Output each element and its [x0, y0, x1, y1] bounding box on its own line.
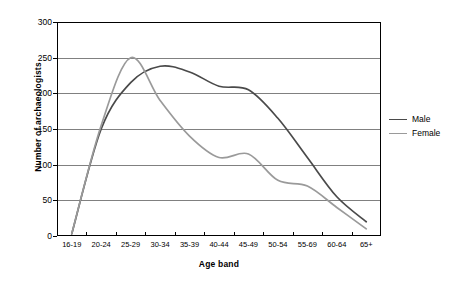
- legend-item-female[interactable]: Female: [389, 126, 457, 140]
- x-axis-tick-label: 55-69: [298, 240, 317, 249]
- y-axis-tick-label: 300: [4, 18, 52, 27]
- series-line-male: [72, 66, 367, 234]
- x-axis-tick-label: 20-24: [92, 240, 111, 249]
- x-axis-tick-label: 50-54: [268, 240, 287, 249]
- y-axis-tick-mark: [53, 165, 57, 166]
- x-axis-tick-label: 65+: [360, 240, 373, 249]
- y-axis-tick-label: 200: [4, 89, 52, 98]
- x-axis-tick-label: 60-64: [327, 240, 346, 249]
- series-line-female: [72, 57, 367, 234]
- legend-item-male[interactable]: Male: [389, 112, 457, 126]
- legend-swatch-female: [389, 133, 407, 134]
- x-axis-tick-label: 40-44: [209, 240, 228, 249]
- y-axis-tick-mark: [53, 129, 57, 130]
- y-axis-tick-mark: [53, 93, 57, 94]
- x-axis-tick-labels: 16-1920-2425-2930-3435-3940-4445-4950-54…: [57, 240, 381, 256]
- x-axis-title: Age band: [57, 259, 381, 269]
- plot-area: [57, 22, 381, 236]
- y-axis-tick-mark: [53, 58, 57, 59]
- chart-legend: MaleFemale: [389, 112, 457, 140]
- x-axis-tick-label: 35-39: [180, 240, 199, 249]
- y-axis-tick-mark: [53, 22, 57, 23]
- y-axis-tick-mark: [53, 200, 57, 201]
- y-axis-tick-label: 150: [4, 125, 52, 134]
- y-axis-tick-label: 100: [4, 160, 52, 169]
- y-axis-tick-mark: [53, 236, 57, 237]
- legend-label: Female: [412, 128, 440, 138]
- plot-svg: [57, 22, 381, 236]
- series-lines: [72, 57, 367, 234]
- y-axis-tick-label: 50: [4, 196, 52, 205]
- legend-label: Male: [412, 114, 430, 124]
- x-axis-tick-label: 25-29: [121, 240, 140, 249]
- y-axis-tick-label: 250: [4, 53, 52, 62]
- y-axis-tick-labels: 050100150200250300: [4, 0, 52, 288]
- y-axis-tick-label: 0: [4, 232, 52, 241]
- x-axis-tick-label: 45-49: [239, 240, 258, 249]
- x-axis-tick-label: 16-19: [62, 240, 81, 249]
- legend-swatch-male: [389, 119, 407, 120]
- chart-container: Number of archaeologists 050100150200250…: [0, 0, 460, 288]
- x-axis-tick-label: 30-34: [150, 240, 169, 249]
